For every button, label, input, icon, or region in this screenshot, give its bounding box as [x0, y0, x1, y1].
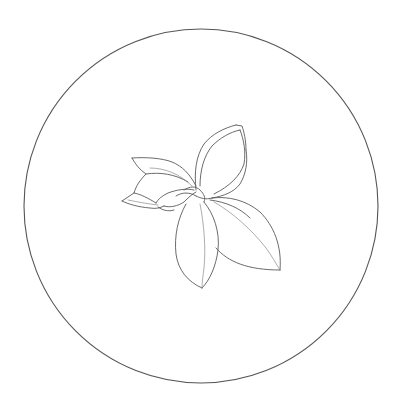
- upper-left-petal: [132, 158, 196, 186]
- illustration-canvas: [0, 0, 400, 410]
- flower-drawing: [122, 125, 280, 288]
- bottom-petal: [175, 202, 218, 288]
- circle-frame: [24, 29, 378, 383]
- top-petal: [195, 125, 246, 198]
- flower-illustration: [0, 0, 400, 410]
- right-petal: [210, 198, 280, 270]
